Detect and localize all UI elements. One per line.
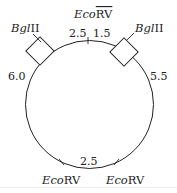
bglii-right-site xyxy=(110,33,138,66)
ecorv-bottom-right-label: EcoRV xyxy=(105,173,145,187)
bglii-right-label: BglII xyxy=(134,21,164,35)
segment-left-size: 6.0 xyxy=(8,70,26,83)
bglii-left-site xyxy=(26,34,54,65)
segment-right-size: 5.5 xyxy=(150,70,168,83)
ecorv-bottom-left-tick xyxy=(59,159,64,165)
segment-top-right-size: 1.5 xyxy=(93,27,111,40)
bglii-left-label: BglII xyxy=(10,21,40,35)
ecorv-bottom-left-label: EcoRV xyxy=(41,173,81,187)
plasmid-map: BglII BglII EcoRV EcoRV EcoRV 2.5 1.5 6.… xyxy=(0,0,177,193)
bottom-divider xyxy=(0,187,177,188)
plasmid-map-svg: BglII BglII EcoRV EcoRV EcoRV 2.5 1.5 6.… xyxy=(0,0,177,193)
ecorv-top-label: EcoRV xyxy=(73,7,113,21)
bglii-right-box xyxy=(110,38,138,66)
bglii-right-leader xyxy=(127,33,134,40)
segment-top-left-size: 2.5 xyxy=(69,27,87,40)
segment-bottom-size: 2.5 xyxy=(80,155,98,168)
